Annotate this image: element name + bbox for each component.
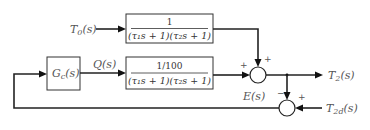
- arrow-icon: [315, 72, 323, 79]
- error-sum-sign-top: −: [277, 88, 285, 98]
- sum-sign-left: +: [240, 60, 248, 70]
- arrow-icon: [284, 92, 291, 100]
- error-signal-label: E(s): [242, 90, 265, 103]
- arrow-icon: [255, 59, 262, 67]
- disturbance-tf-denominator: (τ₁s + 1)(τ₂s + 1): [128, 30, 211, 41]
- controller-label: Gc(s): [52, 67, 80, 81]
- sum-sign-top: +: [264, 54, 272, 64]
- setpoint-input-label: T2d(s): [326, 102, 358, 116]
- output-label: T2(s): [328, 69, 355, 83]
- arrow-icon: [39, 71, 47, 78]
- arrow-icon: [295, 105, 303, 112]
- error-summing-junction: [279, 100, 295, 116]
- output-summing-junction: [250, 67, 266, 83]
- error-sum-sign-right: +: [298, 92, 306, 102]
- control-signal-label: Q(s): [93, 58, 116, 71]
- process-tf-denominator: (τ₁s + 1)(τ₂s + 1): [128, 75, 211, 86]
- disturbance-tf-numerator: 1: [167, 17, 173, 27]
- process-tf-numerator: 1/100: [157, 61, 183, 71]
- arrow-icon: [242, 72, 250, 79]
- arrow-icon: [118, 26, 126, 33]
- disturbance-input-label: T0(s): [70, 23, 97, 37]
- block-diagram: T0(s) 1 (τ₁s + 1)(τ₂s + 1) Gc(s) Q(s) 1/…: [0, 0, 370, 130]
- disturbance-output-wire: [213, 29, 258, 61]
- arrow-icon: [118, 70, 126, 77]
